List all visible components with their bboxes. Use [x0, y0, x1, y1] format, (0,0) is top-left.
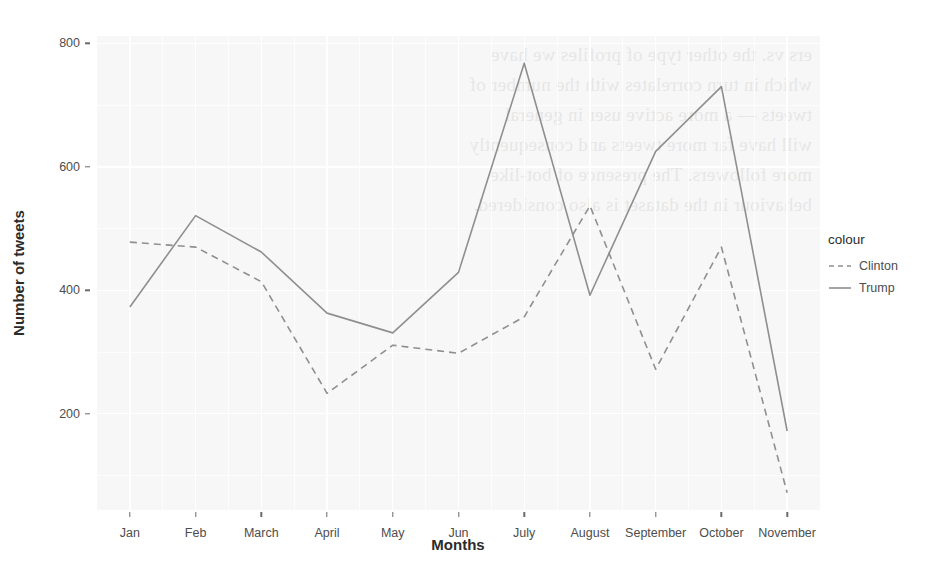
x-axis-title: Months: [431, 536, 484, 553]
legend-label: Trump: [859, 281, 895, 295]
series-line-clinton: [130, 206, 787, 493]
x-tick-label: July: [513, 526, 535, 540]
x-tick-mark: [458, 512, 459, 517]
y-axis-title: Number of tweets: [10, 210, 27, 336]
x-tick-label: October: [699, 526, 743, 540]
series-lines: [97, 36, 820, 510]
y-tick-label: 400: [59, 283, 80, 297]
x-tick-label: November: [758, 526, 816, 540]
y-tick-label: 600: [59, 160, 80, 174]
y-tick-mark: [85, 413, 90, 414]
x-tick-label: August: [570, 526, 609, 540]
x-tick-mark: [195, 512, 196, 517]
legend-entries: ClintonTrump: [828, 255, 938, 299]
legend-item-trump[interactable]: Trump: [828, 277, 938, 299]
x-tick-label: May: [381, 526, 405, 540]
x-tick-mark: [655, 512, 656, 517]
x-tick-mark: [786, 512, 787, 517]
y-tick-mark: [85, 290, 90, 291]
y-tick-label: 800: [59, 36, 80, 50]
x-tick-mark: [524, 512, 525, 517]
x-tick-label: September: [625, 526, 686, 540]
series-line-trump: [130, 63, 787, 431]
y-axis: 200400600800: [46, 36, 90, 510]
x-tick-mark: [392, 512, 393, 517]
x-tick-mark: [326, 512, 327, 517]
x-tick-label: April: [315, 526, 340, 540]
x-tick-label: Feb: [185, 526, 207, 540]
chart-figure: Number of tweets 200400600800 ers vs. th…: [0, 0, 941, 578]
x-tick-mark: [261, 512, 262, 517]
x-tick-mark: [589, 512, 590, 517]
legend-item-clinton[interactable]: Clinton: [828, 255, 938, 277]
x-tick-label: Jan: [120, 526, 140, 540]
legend-key-clinton-icon: [828, 259, 852, 273]
legend-title: colour: [828, 232, 938, 247]
x-tick-mark: [721, 512, 722, 517]
plot-area: ers vs. the other type of profiles we ha…: [97, 36, 820, 510]
legend-label: Clinton: [859, 259, 898, 273]
plot-panel: ers vs. the other type of profiles we ha…: [97, 36, 820, 510]
y-tick-mark: [85, 43, 90, 44]
legend-key-trump-icon: [828, 281, 852, 295]
legend: colour ClintonTrump: [828, 232, 938, 299]
y-tick-mark: [85, 166, 90, 167]
x-tick-label: March: [244, 526, 279, 540]
x-tick-mark: [129, 512, 130, 517]
y-tick-label: 200: [59, 407, 80, 421]
